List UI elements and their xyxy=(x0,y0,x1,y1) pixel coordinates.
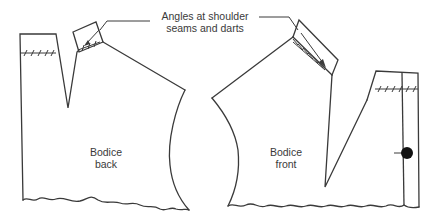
button-icon xyxy=(401,147,413,159)
back-label-line-1: Bodice xyxy=(76,146,136,158)
bodice-back-outline xyxy=(20,22,189,210)
front-label-line-1: Bodice xyxy=(256,146,316,158)
callout-leader-right xyxy=(259,17,298,30)
callout-label: Angles at shoulder seams and darts xyxy=(150,10,260,34)
front-label-line-2: front xyxy=(256,158,316,170)
callout-line-2: seams and darts xyxy=(150,22,260,34)
callout-leader-left xyxy=(100,21,150,30)
bodice-back-label: Bodice back xyxy=(76,146,136,170)
bodice-front-outline xyxy=(212,20,419,208)
back-label-line-2: back xyxy=(76,158,136,170)
bodice-front-label: Bodice front xyxy=(256,146,316,170)
callout-line-1: Angles at shoulder xyxy=(150,10,260,22)
